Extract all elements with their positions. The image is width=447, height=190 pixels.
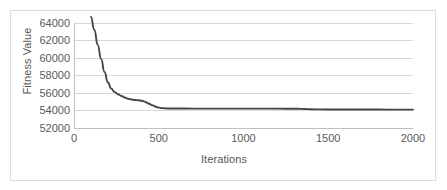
- y-tick-label: 52000: [22, 123, 70, 134]
- y-tick-label: 54000: [22, 105, 70, 116]
- y-axis-tick-labels: 52000540005600058000600006200064000: [16, 23, 70, 128]
- plot-svg: [74, 23, 413, 128]
- y-tick-label: 60000: [22, 53, 70, 64]
- chart-container: Fitness Value 52000540005600058000600006…: [10, 10, 436, 181]
- gridlines: [74, 23, 413, 128]
- y-tick-label: 64000: [22, 18, 70, 29]
- x-axis-title: Iterations: [11, 153, 437, 165]
- data-series: [91, 17, 413, 110]
- y-tick-label: 58000: [22, 70, 70, 81]
- x-tick-label: 500: [129, 133, 189, 144]
- x-axis-tick-labels: 0500100015002000: [74, 133, 413, 149]
- x-tick-label: 1500: [298, 133, 358, 144]
- y-tick-label: 62000: [22, 35, 70, 46]
- y-tick-label: 56000: [22, 88, 70, 99]
- x-tick-label: 1000: [214, 133, 274, 144]
- series-line: [91, 17, 413, 110]
- x-tick-label: 2000: [383, 133, 443, 144]
- x-tick-label: 0: [44, 133, 104, 144]
- plot-area: [74, 23, 413, 128]
